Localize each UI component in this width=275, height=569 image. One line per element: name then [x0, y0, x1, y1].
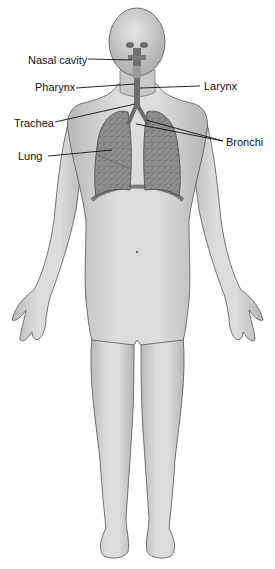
label-pharynx: Pharynx — [35, 81, 75, 93]
label-trachea: Trachea — [14, 117, 54, 129]
label-lung: Lung — [18, 150, 42, 162]
legs — [91, 335, 184, 558]
navel — [136, 251, 138, 253]
torso — [68, 84, 208, 345]
label-bronchi: Bronchi — [226, 136, 263, 148]
label-nasal-cavity: Nasal cavity — [28, 54, 87, 66]
label-larynx: Larynx — [204, 80, 237, 92]
